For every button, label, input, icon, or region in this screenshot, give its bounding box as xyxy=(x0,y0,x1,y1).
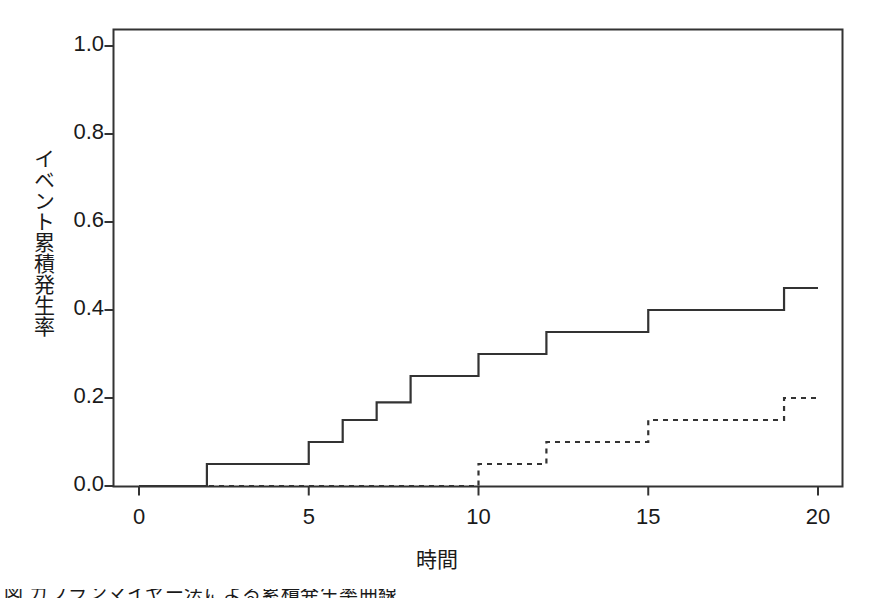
x-tick-label: 0 xyxy=(109,504,169,530)
figure-caption: 図 カプランマイヤー法による累積発生率曲線 xyxy=(0,589,874,598)
y-tick-label: 0.0 xyxy=(44,471,104,497)
y-axis-title: イベント累積発生率 xyxy=(22,148,56,337)
y-tick-label: 1.0 xyxy=(44,31,104,57)
figure-caption-text: 図 カプランマイヤー法による累積発生率曲線 xyxy=(0,589,874,598)
x-tick-label-group: 05101520 xyxy=(0,504,874,544)
x-tick-label: 20 xyxy=(788,504,848,530)
x-tick-label: 10 xyxy=(449,504,509,530)
series-dashed-curve xyxy=(139,398,818,486)
x-axis-title: 時間 xyxy=(0,543,874,573)
y-tick-label: 0.2 xyxy=(44,383,104,409)
x-axis-ticks xyxy=(139,487,818,496)
y-axis-ticks xyxy=(105,46,114,486)
x-tick-label: 5 xyxy=(279,504,339,530)
series-solid-curve xyxy=(139,288,818,486)
x-tick-label: 15 xyxy=(618,504,678,530)
axis-frame xyxy=(114,30,843,487)
y-tick-label: 0.8 xyxy=(44,119,104,145)
cumulative-incidence-chart: 0.00.20.40.60.81.0 05101520 イベント累積発生率 時間… xyxy=(0,0,874,598)
